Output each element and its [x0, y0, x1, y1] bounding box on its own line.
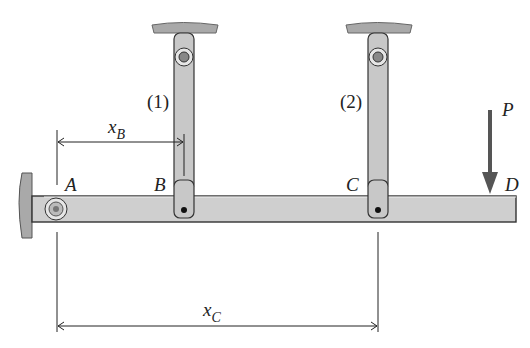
mechanics-diagram: xB xC A B C D P (1) (2) — [0, 0, 530, 348]
wall-support — [19, 173, 32, 238]
label-link-2: (2) — [340, 91, 362, 113]
rigid-bar — [32, 196, 516, 222]
label-C: C — [346, 174, 359, 195]
ceiling-support-2 — [346, 23, 412, 34]
label-A: A — [63, 174, 77, 195]
pin-C — [375, 207, 381, 213]
dimension-xC: xC — [58, 299, 377, 330]
ceiling-support-1 — [152, 23, 218, 34]
dimension-xB: xB — [58, 116, 183, 146]
label-D: D — [504, 174, 519, 195]
svg-text:xC: xC — [202, 299, 221, 325]
load-arrow-P — [482, 110, 498, 194]
svg-text:xB: xB — [107, 116, 125, 142]
pin-A — [53, 206, 59, 212]
pin-top-2 — [373, 52, 383, 62]
label-P: P — [501, 99, 514, 120]
pin-B — [181, 207, 187, 213]
pin-top-1 — [179, 52, 189, 62]
label-B: B — [154, 174, 166, 195]
label-link-1: (1) — [147, 91, 169, 113]
